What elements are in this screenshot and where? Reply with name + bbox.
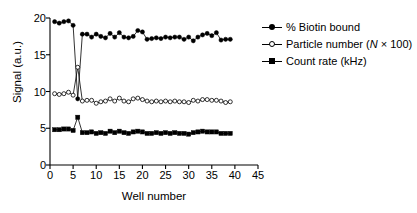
data-point (53, 92, 57, 96)
legend-item-particle-number: Particle number (N × 100) (262, 37, 414, 51)
legend-label-particle-number: Particle number (N × 100) (286, 38, 412, 50)
data-point (71, 93, 75, 97)
data-point (173, 99, 177, 103)
data-point (182, 37, 186, 41)
data-point (168, 100, 172, 104)
data-point (159, 100, 163, 104)
data-point (145, 37, 149, 41)
data-point (200, 33, 204, 37)
data-point (191, 39, 195, 43)
data-point (131, 34, 135, 38)
data-point (224, 101, 228, 105)
data-point (228, 37, 232, 41)
data-point (62, 20, 66, 24)
legend-label-count-rate: Count rate (kHz) (286, 55, 367, 67)
data-point (187, 35, 191, 39)
data-point (150, 100, 154, 104)
data-point (214, 130, 218, 134)
data-point (103, 36, 107, 40)
data-point (131, 97, 135, 101)
data-point (205, 130, 209, 134)
data-point (196, 99, 200, 103)
data-point (113, 35, 117, 39)
data-point (113, 99, 117, 103)
data-point (154, 99, 158, 103)
data-point (66, 19, 70, 23)
data-point (103, 131, 107, 135)
data-point (76, 65, 80, 69)
data-point (187, 101, 191, 105)
data-point (117, 96, 121, 100)
filled-circle-icon (262, 21, 282, 33)
data-point (205, 31, 209, 35)
legend-item-biotin: % Biotin bound (262, 20, 414, 34)
chart-legend: % Biotin bound Particle number (N × 100)… (262, 20, 414, 71)
data-point (90, 130, 94, 134)
data-point (117, 31, 121, 35)
data-point (57, 92, 61, 96)
data-point (163, 131, 167, 135)
data-point (210, 130, 214, 134)
data-point (177, 131, 181, 135)
data-point (113, 131, 117, 135)
data-point (219, 131, 223, 135)
data-point (57, 21, 61, 25)
data-point (200, 129, 204, 133)
data-point (122, 131, 126, 135)
data-point (94, 131, 98, 135)
data-point (205, 98, 209, 102)
data-point (62, 127, 66, 131)
data-point (150, 36, 154, 40)
data-point (99, 131, 103, 135)
data-point (145, 99, 149, 103)
filled-square-icon (262, 55, 282, 67)
data-point (99, 100, 103, 104)
data-point (66, 127, 70, 131)
data-point (182, 131, 186, 135)
data-point (136, 129, 140, 133)
data-point (191, 131, 195, 135)
data-point (140, 98, 144, 102)
data-point (53, 128, 57, 132)
legend-item-count-rate: Count rate (kHz) (262, 54, 414, 68)
data-point (214, 31, 218, 35)
data-point (76, 97, 80, 101)
data-point (122, 35, 126, 39)
series-2 (53, 115, 233, 136)
data-point (108, 129, 112, 133)
legend-label-biotin: % Biotin bound (286, 21, 360, 33)
data-point (80, 99, 84, 103)
data-point (85, 98, 89, 102)
data-point (71, 128, 75, 132)
data-point (168, 131, 172, 135)
data-point (201, 98, 205, 102)
data-point (85, 32, 89, 36)
data-point (196, 35, 200, 39)
data-point (177, 35, 181, 39)
data-point (126, 131, 130, 135)
data-point (80, 131, 84, 135)
data-point (131, 130, 135, 134)
data-point (228, 100, 232, 104)
data-point (164, 99, 168, 103)
data-point (219, 38, 223, 42)
data-point (80, 32, 84, 36)
data-point (122, 99, 126, 103)
series-0 (53, 19, 233, 101)
data-point (187, 132, 191, 136)
data-point (214, 98, 218, 102)
data-point (108, 31, 112, 35)
data-point (145, 131, 149, 135)
data-point (76, 115, 80, 119)
data-point (163, 35, 167, 39)
data-point (99, 34, 103, 38)
figure: 05101520 051015202530354045 Signal (a.u.… (0, 0, 417, 213)
data-point (150, 131, 154, 135)
data-point (103, 99, 107, 103)
data-point (140, 30, 144, 34)
data-point (57, 128, 61, 132)
data-point (191, 98, 195, 102)
data-point (154, 36, 158, 40)
data-point (210, 98, 214, 102)
data-point (62, 92, 66, 96)
